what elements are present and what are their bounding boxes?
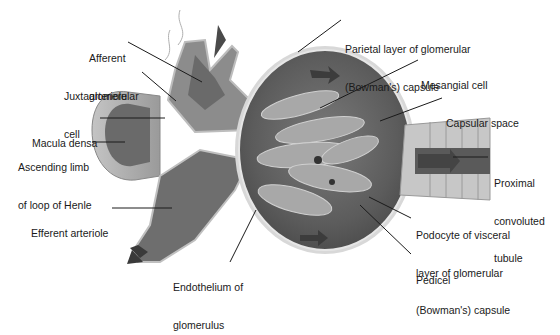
- label-pedicel: Pedicel: [416, 249, 450, 312]
- label-efferent-arteriole: Efferent arteriole: [31, 202, 108, 265]
- label-line: Afferent: [89, 52, 127, 65]
- label-line: Mesangial cell: [421, 79, 488, 92]
- label-line: Proximal: [494, 177, 545, 190]
- label-line: Ascending limb: [18, 161, 92, 174]
- afferent-arteriole-shape: [165, 10, 250, 132]
- label-line: Pedicel: [416, 274, 450, 287]
- label-line: Juxtaglomerular: [64, 90, 139, 103]
- label-endothelium: Endothelium of glomerulus: [173, 256, 243, 335]
- label-line: Efferent arteriole: [31, 227, 108, 240]
- label-line: Capsular space: [446, 117, 519, 130]
- label-line: Endothelium of: [173, 281, 243, 294]
- label-line: Podocyte of visceral: [416, 229, 510, 242]
- label-capsular-space: Capsular space: [446, 92, 519, 155]
- label-line: glomerulus: [173, 319, 243, 332]
